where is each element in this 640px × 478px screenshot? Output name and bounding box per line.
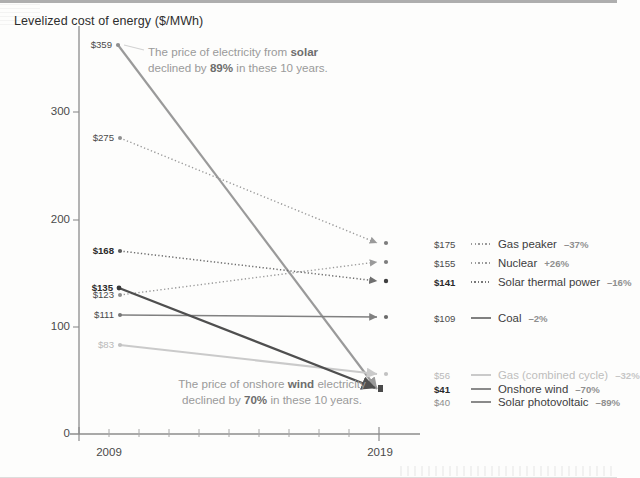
y-axis [73,26,79,434]
annotation-solar-line2a: declined by [148,61,210,74]
annotation-solar-keyword: solar [290,45,318,58]
annotation-solar-pct: 89% [210,61,233,74]
annotation-wind-line2a: declined by [182,393,244,406]
legend-pct-gas-combined-cycle: –32% [615,370,640,381]
annotation-solar-line1a: The price of electricity from [148,45,290,58]
x-tick-2019: 2019 [355,446,405,458]
line-style-solid-icon [471,317,491,319]
x-tick-2009: 2009 [84,446,134,458]
legend-label-gas-peaker: Gas peaker [498,238,557,250]
end-label-nuclear: $155 [434,258,464,269]
annotation-wind-keyword: wind [288,377,314,390]
legend-pct-solar-photovoltaic: –89% [596,397,621,408]
end-label-solar-photovoltaic: $40 [434,397,464,408]
y-tick-0: 0 [36,427,70,439]
end-label-gas-combined-cycle: $56 [434,370,464,381]
series-gas-peaker [118,136,388,245]
series-onshore-wind [117,286,375,388]
start-label-nuclear: $123 [56,289,114,300]
annotation-wind: The price of onshore wind electricity de… [148,376,396,407]
y-tick-300: 300 [36,105,70,117]
legend-pct-solar-thermal-power: –16% [607,277,632,288]
legend-pct-onshore-wind: –70% [575,384,600,395]
series-nuclear [118,260,388,297]
end-label-onshore-wind: $41 [434,384,464,395]
line-style-dotted-icon [471,281,491,283]
line-style-solid-icon [471,401,491,403]
end-label-coal: $109 [434,313,464,324]
end-label-gas-peaker: $175 [434,239,464,250]
y-tick-100: 100 [36,320,70,332]
line-style-solid-icon [471,374,491,376]
line-style-solid-icon [471,388,491,390]
annotation-leader-solar [124,45,144,50]
annotation-wind-pct: 70% [244,393,267,406]
legend-label-solar-photovoltaic: Solar photovoltaic [498,396,589,408]
legend-item-nuclear[interactable]: $155 Nuclear +26% [434,255,569,271]
legend-label-coal: Coal [498,312,521,324]
start-label-coal: $111 [56,309,114,320]
start-label-gas-combined-cycle: $83 [56,339,114,350]
legend-item-gas-peaker[interactable]: $175 Gas peaker –37% [434,236,588,252]
series-coal [118,313,388,319]
legend-item-coal[interactable]: $109 Coal –2% [434,310,548,326]
line-style-dotted-icon [471,243,491,245]
series-gas-combined-cycle [118,343,388,376]
start-label-solar-thermal-power: $168 [56,245,114,256]
annotation-wind-line1a: The price of onshore [178,377,288,390]
annotation-solar: The price of electricity from solar decl… [148,44,398,75]
x-axis [70,427,420,441]
legend-label-nuclear: Nuclear [498,257,537,269]
annotation-solar-line2c: in these 10 years. [233,61,328,74]
legend-item-solar-thermal-power[interactable]: $141 Solar thermal power –16% [434,274,631,290]
annotation-wind-line2c: in these 10 years. [267,393,362,406]
chart-legend: $175 Gas peaker –37% $155 Nuclear +26% $… [434,0,617,478]
start-label-gas-peaker: $275 [56,132,114,143]
line-style-dotted-icon [471,262,491,264]
legend-pct-coal: –2% [528,313,547,324]
end-label-solar-thermal-power: $141 [434,277,464,288]
legend-item-solar-photovoltaic[interactable]: $40 Solar photovoltaic –89% [434,394,620,410]
legend-label-gas-combined-cycle: Gas (combined cycle) [498,369,608,381]
start-label-solar-photovoltaic: $359 [56,39,112,50]
legend-label-solar-thermal-power: Solar thermal power [498,276,600,288]
legend-pct-gas-peaker: –37% [564,239,589,250]
legend-pct-nuclear: +26% [544,258,569,269]
y-tick-200: 200 [36,213,70,225]
annotation-wind-line1c: electricity [314,377,366,390]
